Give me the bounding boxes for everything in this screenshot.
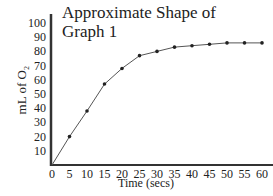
x-tick-label: 55: [239, 167, 251, 181]
data-point: [138, 54, 142, 58]
data-markers: [68, 41, 264, 138]
x-tick-label: 60: [256, 167, 268, 181]
y-tick-labels: 102030405060708090100: [28, 16, 46, 158]
x-tick-label: 10: [81, 167, 93, 181]
x-tick-label: 5: [67, 167, 73, 181]
data-point: [68, 135, 72, 139]
data-point: [243, 41, 247, 45]
chart-title: Approximate Shape of Graph 1: [62, 3, 216, 41]
y-tick-label: 30: [34, 115, 46, 129]
x-tick-label: 50: [221, 167, 233, 181]
x-tick-label: 0: [49, 167, 55, 181]
y-tick-label: 70: [34, 59, 46, 73]
data-point: [260, 41, 264, 45]
data-point: [103, 82, 107, 86]
x-axis-label: Time (secs): [118, 176, 174, 191]
data-line: [52, 43, 262, 165]
data-point: [173, 45, 177, 49]
data-point: [225, 41, 229, 45]
y-tick-label: 90: [34, 30, 46, 44]
data-point: [190, 44, 194, 48]
y-tick-label: 40: [34, 101, 46, 115]
x-tick-label: 15: [99, 167, 111, 181]
y-tick-label: 100: [28, 16, 46, 30]
y-tick-label: 80: [34, 44, 46, 58]
y-tick-label: 50: [34, 87, 46, 101]
y-tick-label: 60: [34, 73, 46, 87]
y-tick-label: 10: [34, 144, 46, 158]
x-tick-label: 40: [186, 167, 198, 181]
x-tick-label: 45: [204, 167, 216, 181]
data-point: [85, 109, 89, 113]
y-tick-label: 20: [34, 130, 46, 144]
data-point: [155, 50, 159, 54]
y-axis-label: mL of O₂: [14, 60, 30, 120]
data-point: [208, 43, 212, 47]
data-point: [120, 67, 124, 71]
